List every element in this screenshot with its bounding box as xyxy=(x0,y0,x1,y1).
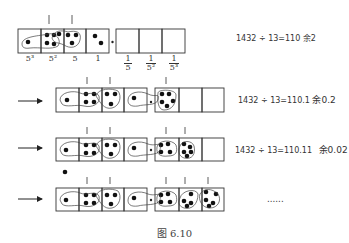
row-3 xyxy=(18,127,224,174)
fraction-label: 1 5² xyxy=(141,55,161,72)
decimal-point xyxy=(111,41,113,43)
fraction-label: 1 5 xyxy=(118,55,138,72)
place-label: 1 xyxy=(88,54,108,63)
remainder-value: 0.02 xyxy=(328,145,348,155)
place-label: 5² xyxy=(43,54,63,63)
remainder-value: 0.2 xyxy=(321,95,335,105)
remainder-word: 余 xyxy=(303,34,311,43)
equation-expression: 1432 ÷ 13=110.11 xyxy=(235,146,315,155)
remainder-word: 余 xyxy=(319,145,328,155)
figure-caption: 图 6.10 xyxy=(0,225,349,240)
continuation-ellipsis: ...... xyxy=(267,193,284,204)
equation-row-3: 1432 ÷ 13=110.11 余0.02 xyxy=(235,143,348,156)
remainder-value: 2 xyxy=(311,34,316,43)
fraction-numerator: 1 xyxy=(164,55,184,63)
dot-icon xyxy=(63,170,68,175)
fraction-denominator: 5² xyxy=(146,63,156,72)
equation-row-1: 1432 ÷ 13=110 余2 xyxy=(236,32,316,43)
place-label: 5³ xyxy=(20,54,40,63)
row-2 xyxy=(18,77,224,112)
fraction-denominator: 5 xyxy=(124,63,132,72)
fraction-numerator: 1 xyxy=(141,55,161,63)
equation-expression: 1432 ÷ 13=110 xyxy=(236,34,303,43)
place-label: 5 xyxy=(65,54,85,63)
fraction-denominator: 5³ xyxy=(169,63,179,72)
fraction-label: 1 5³ xyxy=(164,55,184,72)
equation-expression: 1432 ÷ 13=110.1 xyxy=(238,96,312,105)
fraction-numerator: 1 xyxy=(118,55,138,63)
equation-row-2: 1432 ÷ 13=110.1 余0.2 xyxy=(238,93,336,106)
row-1 xyxy=(18,15,185,53)
row-4 xyxy=(18,177,224,211)
